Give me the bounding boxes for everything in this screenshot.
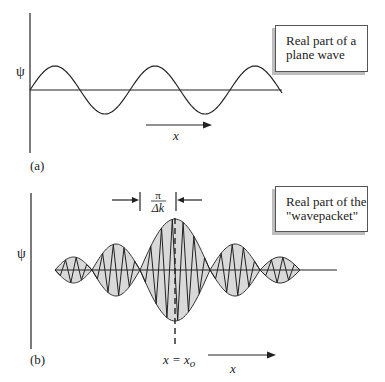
panel-a-label: (a) (30, 158, 44, 173)
caption-line: plane wave (286, 48, 367, 62)
caption-line: Real part of the (286, 195, 367, 209)
arrowhead-icon (203, 122, 212, 129)
arrowhead-icon (132, 197, 139, 203)
arrowhead-icon (267, 352, 276, 359)
caption-line: "wavepacket" (286, 209, 367, 223)
arrowhead-icon (177, 197, 184, 203)
center-label: x = xo (162, 352, 196, 369)
width-denominator: Δk (151, 201, 165, 215)
panel-a-psi-label: ψ (16, 64, 25, 79)
panel-b-psi-label: ψ (17, 246, 26, 261)
caption-box-plane-wave: Real part of a plane wave (275, 25, 368, 72)
panel-b-x-label: x (229, 361, 236, 376)
caption-box-wavepacket: Real part of the "wavepacket" (275, 186, 368, 232)
panel-a-x-label: x (172, 128, 179, 143)
caption-line: Real part of a (286, 34, 367, 48)
width-numerator: π (155, 189, 161, 201)
panel-b-label: (b) (30, 352, 45, 367)
panel-a: ψ x (a) (16, 13, 282, 173)
